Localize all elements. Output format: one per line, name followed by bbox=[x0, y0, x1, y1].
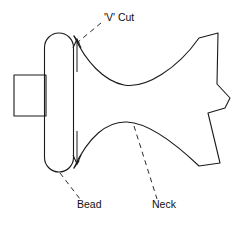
body-outline-shape bbox=[74, 33, 230, 168]
diagram-canvas: 'V' Cut Bead Neck bbox=[0, 0, 246, 225]
bead-label: Bead bbox=[77, 198, 102, 210]
bead-shape bbox=[45, 33, 74, 172]
bead-leader-line bbox=[60, 173, 80, 199]
shaft-rectangle-shape bbox=[14, 75, 46, 116]
bottle-finish-diagram: 'V' Cut Bead Neck bbox=[0, 0, 246, 225]
v-cut-label: 'V' Cut bbox=[104, 11, 134, 23]
v-cut-leader-line bbox=[78, 23, 101, 42]
neck-label: Neck bbox=[152, 198, 177, 210]
neck-leader-line bbox=[134, 126, 157, 199]
